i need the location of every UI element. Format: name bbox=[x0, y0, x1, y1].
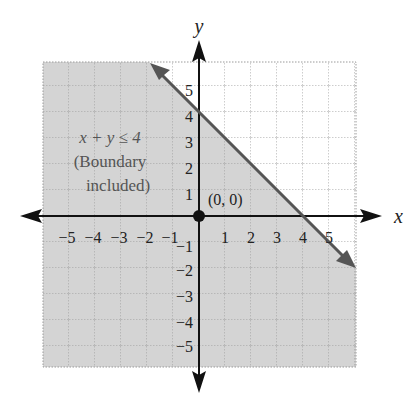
svg-text:2: 2 bbox=[247, 229, 255, 246]
svg-text:1: 1 bbox=[221, 229, 229, 246]
svg-text:−2: −2 bbox=[136, 229, 153, 246]
x-axis-label: x bbox=[393, 205, 403, 227]
svg-text:3: 3 bbox=[185, 134, 193, 151]
svg-text:1: 1 bbox=[185, 186, 193, 203]
y-axis-label: y bbox=[193, 15, 204, 38]
svg-text:4: 4 bbox=[185, 108, 193, 125]
svg-text:−3: −3 bbox=[176, 288, 193, 305]
svg-text:−5: −5 bbox=[176, 338, 193, 355]
origin-label: (0, 0) bbox=[208, 191, 243, 209]
svg-text:−4: −4 bbox=[84, 229, 101, 246]
svg-text:5: 5 bbox=[325, 229, 333, 246]
svg-text:4: 4 bbox=[299, 229, 307, 246]
boundary-note-line2: included) bbox=[86, 176, 150, 195]
inequality-graph: y x −5 −4 −3 −2 −1 1 2 3 4 5 5 4 3 2 1 −… bbox=[0, 0, 420, 400]
svg-text:−4: −4 bbox=[176, 314, 193, 331]
svg-text:2: 2 bbox=[185, 160, 193, 177]
origin-point bbox=[193, 210, 205, 222]
svg-text:−5: −5 bbox=[58, 229, 75, 246]
boundary-note-line1: (Boundary bbox=[74, 152, 147, 171]
inequality-label: x + y ≤ 4 bbox=[78, 128, 141, 147]
svg-text:5: 5 bbox=[185, 82, 193, 99]
svg-text:−3: −3 bbox=[110, 229, 127, 246]
svg-text:3: 3 bbox=[273, 229, 281, 246]
svg-text:−1: −1 bbox=[176, 238, 193, 255]
svg-text:−2: −2 bbox=[176, 262, 193, 279]
